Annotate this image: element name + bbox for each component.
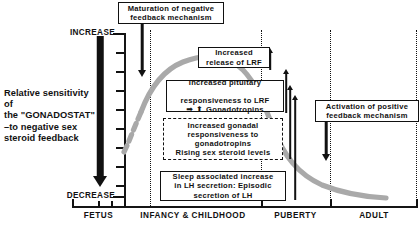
y-tick	[116, 52, 124, 54]
sleep-lh-arrow-up	[290, 95, 300, 200]
x-axis-label-fetus: FETUS	[72, 211, 125, 220]
up-arrow-icon: ⬆	[196, 106, 203, 114]
y-tick	[116, 147, 124, 149]
callout-maturation-negative-feedback[interactable]: Maturation of negative feedback mechanis…	[118, 2, 224, 24]
callout-positive-feedback[interactable]: Activation of positive feedback mechanis…	[315, 100, 419, 122]
y-axis-caption: Relative sensitivity of the "GONADOSTAT"…	[4, 88, 96, 144]
y-tick	[116, 166, 124, 168]
positive-feedback-arrow-down	[320, 122, 332, 162]
period-separator-fetus-infancy	[150, 30, 151, 206]
gonadostat-direction-arrow	[92, 36, 108, 188]
callout-sleep-lh-secretion[interactable]: Sleep associated increase in LH secretio…	[160, 171, 286, 201]
right-arrow-icon: ➡	[186, 106, 193, 114]
curve-fetal-dashed	[124, 112, 141, 152]
x-tick	[72, 199, 74, 207]
y-axis-bottom-label: DECREASE	[60, 191, 115, 200]
maturation-arrow-down	[136, 24, 148, 78]
gonadotropins-row: ➡ ⬆ Gonadotropins	[181, 105, 270, 114]
pituitary-line-2: responsiveness to LRF	[181, 96, 270, 105]
y-tick	[116, 109, 124, 111]
gonadotropins-label: Gonadotropins	[206, 105, 264, 114]
x-tick	[124, 199, 126, 207]
y-tick	[116, 128, 124, 130]
y-tick	[116, 90, 124, 92]
y-tick	[116, 71, 124, 73]
x-axis-label-infancy-childhood: INFANCY & CHILDHOOD	[125, 211, 261, 220]
x-tick	[111, 201, 113, 207]
y-axis-line	[124, 33, 126, 207]
y-tick	[116, 185, 124, 187]
x-tick	[98, 201, 100, 207]
callout-pituitary-responsiveness[interactable]: Increased pituitary responsiveness to LR…	[166, 80, 284, 112]
figure-canvas: INCREASE DECREASE Relative sensitivity o…	[0, 0, 420, 228]
x-axis-label-puberty: PUBERTY	[261, 211, 330, 220]
pituitary-text-group: Increased pituitary responsiveness to LR…	[181, 69, 270, 124]
x-axis-label-adult: ADULT	[330, 211, 418, 220]
callout-gonadal-responsiveness[interactable]: Increased gonadal responsiveness to gona…	[163, 118, 283, 160]
callout-increased-lrf-release[interactable]: Increased release of LRF	[198, 47, 270, 68]
pituitary-line-1: Increased pituitary	[189, 78, 261, 87]
